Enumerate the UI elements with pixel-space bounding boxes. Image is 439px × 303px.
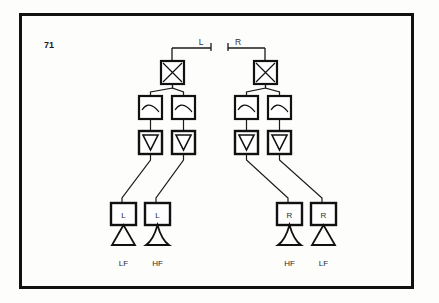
speaker-right-lf-channel-label: R	[321, 211, 327, 220]
filter-box-left-lf-frame	[139, 96, 162, 119]
speaker-left-lf-channel-label: L	[121, 211, 126, 220]
speaker-right-hf-channel-label: R	[287, 211, 293, 220]
filter-box-left-hf[interactable]	[172, 96, 195, 119]
figure-panel: 71 L R	[0, 0, 439, 303]
input-label-left: L	[199, 37, 204, 47]
page-background	[0, 0, 439, 303]
figure-number: 71	[44, 40, 54, 50]
filter-box-right-hf-frame	[235, 96, 258, 119]
amplifier-box-left-hf[interactable]	[172, 131, 195, 154]
filter-box-left-lf[interactable]	[139, 96, 162, 119]
amplifier-box-left-lf[interactable]	[139, 131, 162, 154]
amplifier-box-right-hf[interactable]	[235, 131, 258, 154]
filter-box-right-lf[interactable]	[268, 96, 291, 119]
speaker-right-lf-band-label: LF	[319, 259, 328, 268]
block-diagram: 71 L R	[0, 0, 439, 303]
filter-box-right-lf-frame	[268, 96, 291, 119]
speaker-right-hf-band-label: HF	[284, 259, 295, 268]
filter-box-left-hf-frame	[172, 96, 195, 119]
crossover-box-right[interactable]	[254, 61, 277, 84]
filter-box-right-hf[interactable]	[235, 96, 258, 119]
speaker-left-lf-band-label: LF	[119, 259, 128, 268]
input-label-right: R	[235, 37, 241, 47]
speaker-left-hf-channel-label: L	[155, 211, 160, 220]
amplifier-box-right-lf[interactable]	[268, 131, 291, 154]
speaker-left-hf-band-label: HF	[152, 259, 163, 268]
crossover-box-left[interactable]	[161, 61, 184, 84]
